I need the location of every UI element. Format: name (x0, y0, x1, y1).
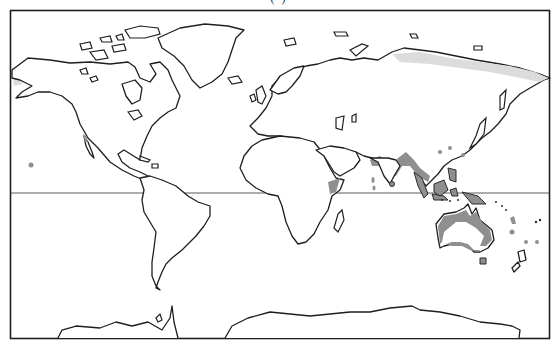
new-zealand-north (518, 250, 526, 262)
ireland (250, 94, 256, 102)
iceland (228, 76, 242, 84)
island-dot (495, 201, 497, 203)
maldives (373, 186, 376, 191)
island-dot (449, 200, 451, 202)
sulawesi (450, 188, 458, 196)
new-guinea (462, 192, 486, 204)
hispaniola (152, 164, 158, 168)
madagascar (334, 210, 344, 232)
samoa (524, 240, 528, 244)
arctic-island (90, 50, 108, 60)
arctic-island (116, 34, 124, 40)
antarctic-island (156, 314, 162, 322)
antarctica-east (225, 306, 520, 338)
island-dot (505, 209, 507, 211)
arctic-island (112, 44, 126, 52)
great-britain (256, 86, 266, 104)
caspian-sea (336, 116, 344, 130)
new-zealand-south (512, 262, 520, 272)
arctic-island (80, 42, 92, 50)
philippines (448, 168, 456, 182)
cuba (140, 156, 150, 162)
novaya-zemlya (350, 44, 368, 56)
shading-new-caledonia (510, 216, 516, 224)
maldives (372, 177, 375, 183)
new-siberian-islands (474, 46, 482, 50)
tasmania (480, 258, 486, 264)
arctic-island (410, 34, 418, 38)
island-dot (441, 199, 443, 201)
arctic-island (125, 26, 160, 38)
world-map (0, 0, 558, 349)
fiji (510, 230, 515, 235)
okinawa (461, 153, 465, 157)
island-dot (457, 199, 459, 201)
arctic-island (100, 36, 112, 42)
hawaii (29, 163, 34, 168)
tonga (535, 240, 539, 244)
franz-josef-land (334, 32, 348, 36)
island-dot (448, 146, 452, 150)
island-dot (535, 221, 537, 223)
borneo (434, 180, 448, 196)
island-dot (501, 205, 503, 207)
taiwan (438, 150, 442, 154)
sri-lanka (390, 182, 395, 187)
antarctica (58, 306, 178, 338)
svalbard (284, 38, 296, 46)
island-dot (539, 219, 541, 221)
aral-sea (352, 114, 356, 122)
